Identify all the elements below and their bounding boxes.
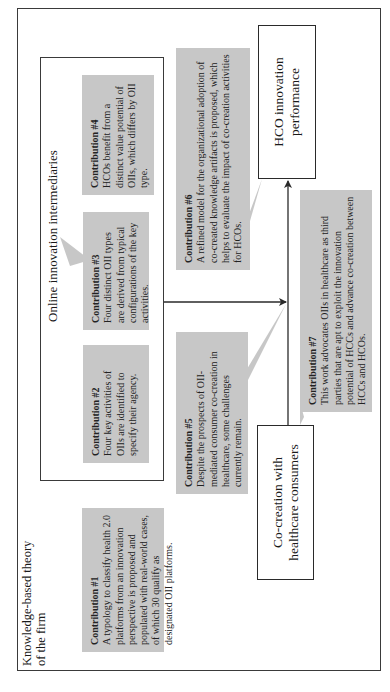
- contribution-3-callout: Contribution #3 Four distinct OII types …: [83, 212, 149, 330]
- diagram-canvas: Knowledge-based theory of the firm Onlin…: [0, 0, 390, 692]
- contribution-4-text: HCOs benefit from a distinct value poten…: [101, 83, 149, 188]
- contribution-6-title: Contribution #6: [183, 54, 195, 263]
- contribution-2-title: Contribution #2: [90, 351, 102, 456]
- contribution-6-text: A refined model for the organizational a…: [195, 54, 243, 263]
- contribution-7-text: This work advocates OIIs in healthcare a…: [319, 197, 367, 405]
- knowledge-based-theory-label: Knowledge-based theory of the firm: [20, 541, 48, 666]
- contribution-5-title: Contribution #5: [183, 338, 195, 487]
- frame-label-line2: of the firm: [34, 541, 48, 666]
- oii-frame-label: Online innovation intermediaries: [46, 150, 60, 322]
- contribution-1-title: Contribution #1: [89, 514, 101, 645]
- contribution-3-title: Contribution #3: [90, 218, 102, 323]
- contribution-4-title: Contribution #4: [89, 81, 101, 188]
- contribution-7-title: Contribution #7: [307, 196, 319, 405]
- contribution-5-callout: Contribution #5 Despite the prospects of…: [176, 332, 248, 494]
- hco-node-line1: HCO innovation: [271, 57, 287, 147]
- cocreation-healthcare-consumers-node: Co-creation with healthcare consumers: [257, 425, 314, 580]
- contribution-5-text: Despite the prospects of OII-mediated co…: [195, 351, 243, 487]
- cocreation-node-line2: healthcare consumers: [286, 444, 302, 561]
- frame-label-line1: Knowledge-based theory: [20, 541, 34, 666]
- contribution-4-callout: Contribution #4 HCOs benefit from a dist…: [82, 75, 154, 195]
- cocreation-node-line1: Co-creation with: [270, 444, 286, 561]
- contribution-6-callout: Contribution #6 A refined model for the …: [176, 48, 250, 270]
- contribution-2-text: Four key activities of OIIs are identifi…: [102, 371, 138, 456]
- contribution-3-text: Four distinct OII types are derived from…: [102, 223, 150, 323]
- hco-innovation-performance-node: HCO innovation performance: [258, 25, 316, 179]
- contribution-1-callout: Contribution #1 A typology to classify h…: [82, 508, 164, 652]
- contribution-1-text: A typology to classify health 2.0 platfo…: [101, 515, 173, 645]
- contribution-7-callout: Contribution #7 This work advocates OIIs…: [300, 190, 372, 412]
- hco-node-line2: performance: [287, 57, 303, 147]
- contribution-2-callout: Contribution #2 Four key activities of O…: [83, 345, 149, 463]
